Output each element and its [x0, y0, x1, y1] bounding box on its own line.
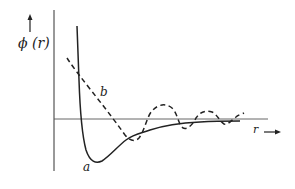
y-arrow-icon — [28, 14, 33, 32]
curve-a-label: a — [83, 161, 90, 173]
curve-b-label: b — [100, 86, 108, 98]
x-arrow-icon — [264, 130, 281, 135]
y-axis-label: ϕ (r) — [18, 36, 50, 50]
potential-diagram — [0, 0, 295, 189]
x-axis-label: r — [253, 124, 258, 135]
